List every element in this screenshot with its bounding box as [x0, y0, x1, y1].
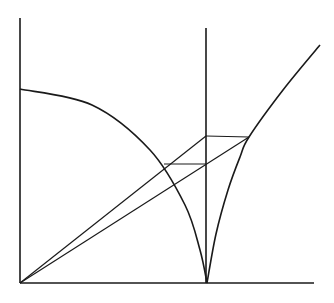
- figure-canvas: [0, 0, 334, 303]
- rising-arc-curve: [207, 45, 320, 283]
- descending-arc-curve: [20, 89, 207, 283]
- chord-origin-to-upper-node: [20, 137, 249, 283]
- upper-horizontal-segment: [206, 136, 249, 137]
- geometry-diagram: [0, 0, 334, 303]
- chord-origin-to-ordinate: [20, 136, 206, 283]
